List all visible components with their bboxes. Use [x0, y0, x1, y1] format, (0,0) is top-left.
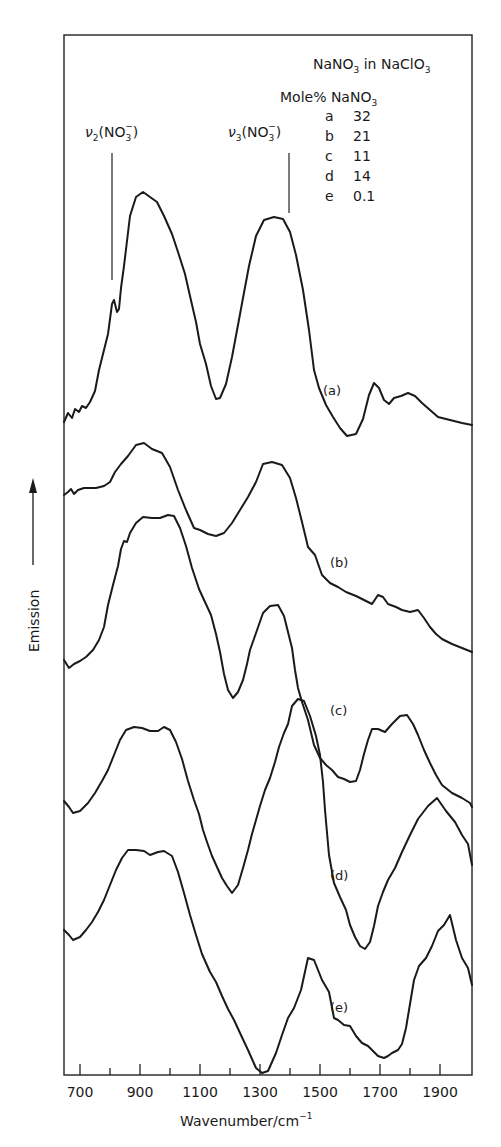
nu3-label: ν3(NO3−): [228, 121, 281, 143]
curve-label-e: (e): [330, 1000, 348, 1015]
legend-entries: a32b21c11d14e0.1: [325, 108, 375, 204]
curve-label-d: (d): [330, 868, 348, 883]
tick-label: 1700: [362, 1084, 398, 1100]
y-axis-label: Emission: [26, 590, 42, 652]
x-axis-label: Wavenumber/cm−1: [180, 1111, 312, 1129]
legend-key: c: [325, 148, 333, 164]
arrowhead-icon: [29, 478, 37, 493]
curve-label-b: (b): [330, 555, 348, 570]
legend-header: Mole% NaNO3: [280, 89, 377, 108]
spectrum-curve-e: [64, 850, 472, 1073]
curve-label-c: (c): [330, 703, 347, 718]
spectrum-curve-c: [64, 515, 472, 807]
legend-value: 0.1: [353, 188, 375, 204]
x-axis-tick-labels: 70090011001300150017001900: [67, 1084, 458, 1100]
curve-label-a: (a): [323, 383, 341, 398]
legend-value: 32: [353, 108, 371, 124]
legend-value: 14: [353, 168, 371, 184]
tick-label: 1300: [242, 1084, 278, 1100]
spectrum-curve-b: [64, 443, 472, 652]
nu3-annotation: ν3(NO3−): [228, 121, 289, 213]
legend-key: a: [325, 108, 334, 124]
y-axis-label-group: Emission: [26, 478, 42, 652]
spectra-curves: [64, 192, 472, 1073]
legend-key: b: [325, 128, 334, 144]
x-axis-ticks: [80, 1064, 440, 1075]
nu2-annotation: ν2(NO3−): [85, 121, 138, 280]
legend-value: 11: [353, 148, 371, 164]
tick-label: 700: [67, 1084, 94, 1100]
legend-title: NaNO3 in NaClO3: [313, 56, 430, 75]
legend-key: e: [325, 188, 334, 204]
tick-label: 1900: [422, 1084, 458, 1100]
tick-label: 900: [127, 1084, 154, 1100]
plot-frame: [64, 35, 472, 1075]
tick-label: 1100: [182, 1084, 218, 1100]
legend-key: d: [325, 168, 334, 184]
curve-labels: (a)(b)(c)(d)(e): [323, 383, 348, 1015]
spectrum-curve-d: [64, 699, 472, 949]
legend-value: 21: [353, 128, 371, 144]
legend: NaNO3 in NaClO3 Mole% NaNO3 a32b21c11d14…: [280, 56, 430, 204]
emission-spectra-chart: 70090011001300150017001900 Wavenumber/cm…: [0, 0, 501, 1147]
spectrum-curve-a: [64, 192, 472, 436]
tick-label: 1500: [302, 1084, 338, 1100]
nu2-label: ν2(NO3−): [85, 121, 138, 143]
